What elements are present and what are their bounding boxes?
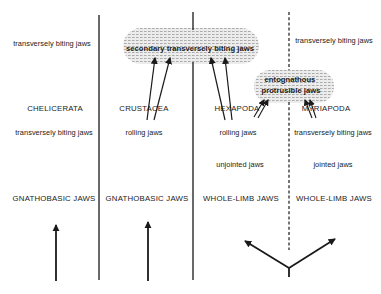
hexapoda-jaw-type: WHOLE-LIMB JAWS	[203, 195, 279, 203]
myriapoda-taxon-label: MYRIAPODA	[302, 105, 351, 113]
secondary-trait-label: secondary transversely biting jaws	[126, 45, 254, 53]
branch-arrow-hexapoda	[245, 241, 289, 268]
branch-arrow-myriapoda	[289, 239, 335, 268]
chelicerata-top-trait: transversely biting jaws	[13, 40, 91, 47]
hexapoda-jaw-motion: rolling jaws	[219, 129, 256, 136]
hexapoda-taxon-label: HEXAPODA	[215, 105, 260, 113]
myriapoda-jaw-type: WHOLE-LIMB JAWS	[296, 195, 372, 203]
crustacea-taxon-label: CRUSTACEA	[119, 105, 168, 113]
myriapoda-jointing: jointed jaws	[313, 161, 352, 168]
entognathous-trait-label-line2: protrusible jaws	[261, 87, 320, 95]
crustacea-jaw-motion: rolling jaws	[125, 129, 162, 136]
hexapoda-jointing: unjointed jaws	[216, 161, 264, 168]
chelicerata-jaw-type: GNATHOBASIC JAWS	[13, 195, 96, 203]
entognathous-trait-label-line1: entognathous	[265, 76, 316, 84]
chelicerata-taxon-label: CHELICERATA	[27, 105, 83, 113]
chelicerata-jaw-motion: transversely biting jaws	[15, 129, 93, 136]
myriapoda-top-trait: transversely biting jaws	[295, 37, 373, 44]
crustacea-jaw-type: GNATHOBASIC JAWS	[106, 195, 189, 203]
myriapoda-jaw-motion: transversely biting jaws	[294, 129, 372, 136]
